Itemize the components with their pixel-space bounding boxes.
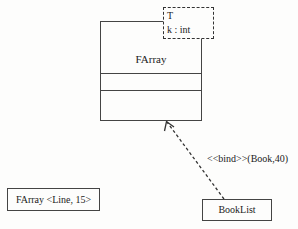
booklist-class-name: BookList xyxy=(218,204,255,215)
template-parameter-value: k : int xyxy=(167,23,213,37)
template-parameters-box: T k : int xyxy=(163,7,214,39)
template-parameter-type: T xyxy=(167,9,213,23)
operations-compartment-divider xyxy=(101,90,201,91)
bound-class-booklist[interactable]: BookList xyxy=(202,199,272,221)
bound-class-label: FArray <Line, 15> xyxy=(16,194,91,205)
open-arrowhead-icon xyxy=(165,122,175,132)
attributes-compartment-divider xyxy=(101,73,201,74)
bound-class-farray-line-15[interactable]: FArray <Line, 15> xyxy=(7,188,100,211)
bind-stereotype-label: <<bind>>(Book,40) xyxy=(207,153,288,164)
class-name: FArray xyxy=(101,53,201,65)
